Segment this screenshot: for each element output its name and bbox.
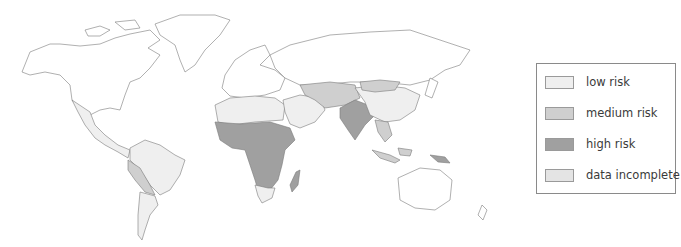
region-new-zealand <box>478 205 487 220</box>
region-sub-saharan-africa <box>215 122 295 190</box>
region-southern-africa <box>255 185 275 203</box>
region-north-africa <box>215 96 285 125</box>
region-greenland <box>155 15 230 72</box>
region-papua-new-guinea <box>430 155 450 163</box>
legend-item-data-incomplete: data incomplete <box>545 168 680 182</box>
legend-label: low risk <box>586 75 630 89</box>
map-legend: low risk medium risk high risk data inco… <box>536 63 676 194</box>
legend-label: medium risk <box>586 106 658 120</box>
swatch-medium-risk <box>545 107 574 120</box>
region-madagascar <box>290 170 300 192</box>
region-indonesia <box>372 148 412 163</box>
region-russia <box>270 30 470 85</box>
region-southeast-asia <box>375 120 392 142</box>
swatch-high-risk <box>545 138 574 151</box>
legend-label: data incomplete <box>586 168 680 182</box>
region-north-america <box>22 30 160 115</box>
region-mongolia <box>360 80 400 92</box>
legend-label: high risk <box>586 137 635 151</box>
legend-item-medium-risk: medium risk <box>545 106 658 120</box>
legend-item-high-risk: high risk <box>545 137 635 151</box>
region-south-america-south <box>138 192 158 240</box>
world-risk-map <box>0 0 530 247</box>
legend-item-low-risk: low risk <box>545 75 630 89</box>
swatch-low-risk <box>545 76 574 89</box>
swatch-data-incomplete <box>545 169 574 182</box>
region-australia <box>398 168 452 210</box>
